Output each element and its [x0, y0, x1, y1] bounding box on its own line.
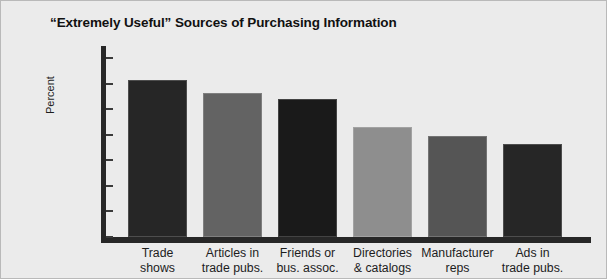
x-axis-baseline — [101, 237, 591, 243]
x-axis-category-label: Friends or bus. assoc. — [268, 246, 347, 276]
bar — [503, 144, 562, 237]
y-axis-tick — [106, 57, 113, 59]
x-axis-category-label: Ads in trade pubs. — [493, 246, 572, 276]
x-axis-category-label: Articles in trade pubs. — [193, 246, 272, 276]
y-axis-tick — [106, 159, 113, 161]
y-axis-tick — [106, 236, 113, 238]
x-axis-category-label: Manufacturer reps — [418, 246, 497, 276]
bar — [428, 136, 487, 237]
bar — [203, 93, 262, 237]
bar — [353, 127, 412, 237]
y-axis-tick — [106, 134, 113, 136]
x-axis-category-label: Trade shows — [118, 246, 197, 276]
chart-figure: “Extremely Useful” Sources of Purchasing… — [0, 0, 607, 279]
plot-area: 10090807060504030 — [101, 46, 591, 242]
chart-title: “Extremely Useful” Sources of Purchasing… — [50, 15, 397, 30]
y-axis-spine — [101, 46, 106, 242]
y-axis-tick — [106, 108, 113, 110]
x-axis-category-label: Directories & catalogs — [343, 246, 422, 276]
y-axis-tick — [106, 83, 113, 85]
y-axis-tick — [106, 210, 113, 212]
bar — [278, 99, 337, 237]
y-axis-tick — [106, 185, 113, 187]
y-axis-title: Percent — [44, 76, 56, 114]
bar — [128, 80, 187, 237]
